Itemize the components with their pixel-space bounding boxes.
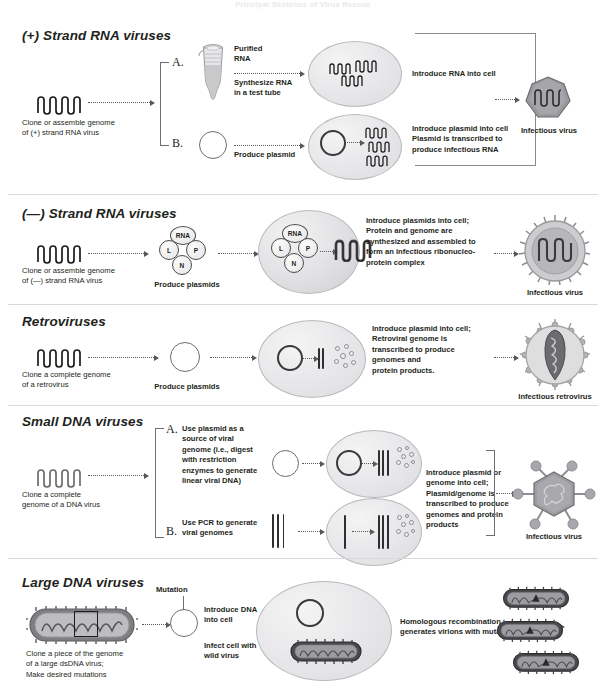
product-arrow (494, 250, 520, 257)
section-divider (8, 194, 598, 195)
process-label: Introduce plasmid into cell; Retroviral … (372, 324, 492, 376)
rna-in-cell-icon (328, 60, 384, 88)
section-minus-strand-rna: (—) Strand RNA viruses Clone or assemble… (0, 196, 606, 306)
protein-products-dots-a (394, 446, 422, 476)
branch-b-label: Use PCR to generate viral genomes (182, 518, 266, 539)
infectious-virus-icon (518, 214, 592, 288)
plasmid-in-cell-icon (336, 450, 362, 476)
plasmid-in-cell-icon (277, 345, 303, 371)
flow-arrow-b (298, 528, 326, 535)
plasmid-ring-icon (199, 131, 227, 159)
mutated-plasmid-icon (170, 609, 198, 637)
plasmid-ring-icon (170, 342, 200, 372)
mutation-label: Mutation (156, 585, 214, 595)
flow-arrow-1 (88, 250, 150, 257)
branch-bracket (155, 428, 164, 538)
product-label: Infectious retrovirus (508, 392, 602, 402)
transcription-arrow-a (362, 460, 378, 467)
start-label: Clone or assemble genome of (—) strand R… (22, 266, 154, 287)
rna-genome-squiggle-icon (36, 95, 82, 115)
flow-arrow (88, 99, 156, 106)
transcription-arrow (303, 355, 319, 362)
linear-dna-in-cell-icon (344, 515, 346, 549)
branch-bracket (160, 62, 169, 146)
synthesize-rna-label: Synthesize RNA in a test tube (234, 78, 306, 99)
infectious-virus-icon (524, 75, 572, 121)
produce-plasmids-label: Produce plasmids (145, 280, 229, 290)
section-title: (+) Strand RNA viruses (22, 28, 171, 43)
flow-arrow-1 (88, 354, 160, 361)
product-arrow (495, 96, 521, 103)
section-title: Large DNA viruses (22, 575, 144, 590)
plasmid-in-cell-icon (296, 599, 324, 627)
nucleoprotein-cluster: RNA L P N (156, 226, 212, 276)
rna-produced-icon (364, 126, 394, 168)
section-title: Retroviruses (22, 314, 106, 329)
section-retroviruses: Retroviruses Clone a complete genome of … (0, 306, 606, 406)
protein-products-dots-b (394, 514, 422, 546)
plasmid-ring-icon (272, 450, 299, 477)
rna-genome-squiggle-icon (36, 244, 82, 264)
protein-products-dots (332, 344, 366, 374)
product-label: Infectious virus (514, 126, 584, 136)
product-label: Infectious virus (512, 532, 596, 542)
test-tube-icon (196, 40, 230, 104)
converge-bracket (486, 450, 495, 536)
mutant-virion-icon (494, 617, 566, 643)
dna-bars-icon (378, 450, 389, 476)
start-label: Clone a piece of the genome of a large d… (26, 649, 176, 680)
flow-arrow-2 (210, 354, 258, 361)
branch-letter-b: B. (172, 136, 183, 151)
flow-arrow-1 (88, 472, 150, 479)
product-arrow (494, 354, 520, 361)
branch-letter-a: A. (172, 55, 184, 70)
rna-genome-squiggle-icon (36, 348, 82, 368)
flow-arrow-1 (142, 621, 172, 628)
infectious-retrovirus-icon (518, 318, 592, 392)
section-small-dna: Small DNA viruses Clone a complete genom… (0, 406, 606, 561)
section-plus-strand-rna: (+) Strand RNA viruses Clone or assemble… (0, 0, 606, 196)
section-large-dna: Large DNA viruses Clone a piece (0, 561, 606, 692)
plasmid-node-n: N (172, 255, 192, 275)
produce-plasmids-label: Produce plasmids (145, 382, 229, 392)
section-title: Small DNA viruses (22, 414, 143, 429)
start-label: Clone a complete genome of a DNA virus (22, 490, 154, 511)
dna-bars-icon (318, 348, 324, 369)
section-divider (8, 304, 598, 305)
branch-letter-b: B. (166, 524, 177, 539)
mutant-virion-stack (490, 585, 606, 683)
nucleoprotein-cluster-in-cell: RNA L P N (268, 224, 324, 274)
section-divider (8, 558, 598, 559)
plasmid-in-cell-icon (320, 130, 346, 156)
transcription-arrow (347, 139, 365, 146)
infectious-virus-icon (512, 456, 596, 532)
start-label: Clone or assemble genome of (+) strand R… (22, 118, 152, 139)
transcription-arrow-b (352, 528, 376, 535)
section-title: (—) Strand RNA viruses (22, 206, 177, 221)
start-label: Clone a complete genome of a retrovirus (22, 370, 154, 391)
branch-letter-a: A. (166, 422, 178, 437)
node-n: N (284, 253, 304, 273)
flow-arrow-a (234, 70, 306, 77)
dna-bars-icon-b (378, 515, 389, 549)
flow-arrow-b (234, 142, 306, 149)
mutation-box (74, 611, 98, 637)
process-label: Introduce plasmids into cell; Protein an… (366, 216, 496, 268)
pcr-dna-bars-icon (272, 514, 284, 548)
dna-genome-squiggle-icon (36, 468, 82, 488)
product-label: Infectious virus (518, 288, 592, 298)
mutant-virion-icon (500, 585, 572, 611)
purified-rna-label: Purified RNA (234, 44, 284, 65)
produce-plasmid-label: Produce plasmid (234, 150, 306, 160)
wild-virus-in-cell-icon (288, 637, 364, 665)
branch-a-label: Use plasmid as a source of viral genome … (182, 424, 266, 486)
mutation-leader-line (183, 596, 184, 610)
flow-arrow-2 (218, 250, 260, 257)
mutant-virion-icon (510, 649, 582, 675)
diagram-page: Principal Sketches of Virus Rescue (+) S… (0, 0, 606, 692)
flow-arrow-a (302, 460, 326, 467)
step-label-infect-cell: Infect cell with wild virus (204, 641, 266, 662)
host-cell (256, 581, 392, 681)
